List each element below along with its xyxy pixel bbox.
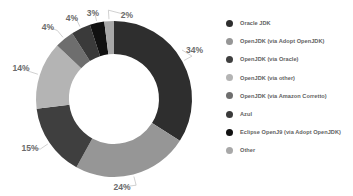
slice-value-label: 15% — [21, 143, 38, 153]
legend-item[interactable]: Other — [226, 141, 353, 159]
legend-item-label: OpenJDK (via Amazon Corretto) — [240, 93, 327, 99]
legend-swatch-icon — [226, 111, 233, 118]
legend-item[interactable]: OpenJDK (via Adopt OpenJDK) — [226, 32, 353, 50]
legend-item-label: OpenJDK (via Adopt OpenJDK) — [240, 38, 324, 44]
legend-item[interactable]: Azul — [226, 105, 353, 123]
legend-item[interactable]: Oracle JDK — [226, 14, 353, 32]
legend-swatch-icon — [226, 74, 233, 81]
legend-swatch-icon — [226, 20, 233, 27]
legend-item-label: OpenJDK (via other) — [240, 75, 295, 81]
slice-value-label: 3% — [87, 8, 100, 18]
donut-svg: 34%24%15%14%4%4%3%2% — [0, 0, 225, 196]
legend-item-label: Oracle JDK — [240, 20, 271, 26]
legend-swatch-icon — [226, 129, 233, 136]
slice-value-label: 4% — [42, 22, 55, 32]
donut-plot-area: 34%24%15%14%4%4%3%2% — [0, 0, 225, 196]
legend-swatch-icon — [226, 147, 233, 154]
legend-item-label: OpenJDK (via Oracle) — [240, 56, 299, 62]
legend-item[interactable]: OpenJDK (via Oracle) — [226, 50, 353, 68]
legend-item[interactable]: Eclipse OpenJ9 (via Adopt OpenJDK) — [226, 123, 353, 141]
donut-slices — [36, 21, 192, 177]
legend-item[interactable]: OpenJDK (via Amazon Corretto) — [226, 87, 353, 105]
slice-value-label: 4% — [66, 13, 79, 23]
slice-value-label: 24% — [113, 182, 130, 192]
donut-slice[interactable] — [114, 21, 192, 141]
legend-swatch-icon — [226, 56, 233, 63]
legend-swatch-icon — [226, 38, 233, 45]
legend-item[interactable]: OpenJDK (via other) — [226, 69, 353, 87]
legend-swatch-icon — [226, 92, 233, 99]
legend-item-label: Other — [240, 147, 255, 153]
slice-value-label: 34% — [186, 45, 203, 55]
legend-item-label: Eclipse OpenJ9 (via Adopt OpenJDK) — [240, 129, 341, 135]
donut-slice[interactable] — [76, 123, 179, 177]
legend-item-label: Azul — [240, 111, 252, 117]
slice-value-label: 2% — [121, 10, 134, 20]
donut-chart-figure: 34%24%15%14%4%4%3%2% Oracle JDK OpenJDK … — [0, 0, 353, 196]
chart-legend: Oracle JDK OpenJDK (via Adopt OpenJDK) O… — [226, 14, 353, 160]
slice-value-label: 14% — [12, 63, 29, 73]
